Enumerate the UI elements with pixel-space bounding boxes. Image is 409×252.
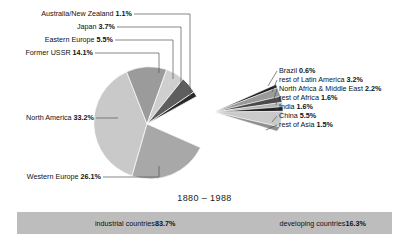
summary-developing-countries: developing countries 16.3% (253, 212, 392, 234)
summary-bar: industrial countries 83.7% developing co… (17, 212, 392, 234)
pie-chart-figure: Australia/New Zealand 1.1% Japan 3.7% Ea… (0, 0, 409, 252)
label-eastern-europe: Eastern Europe 5.5% (0, 36, 113, 43)
label-australia-new-zealand: Australia/New Zealand 1.1% (0, 10, 132, 17)
main-pie-slices (94, 67, 201, 179)
exploded-wedge-developing (214, 85, 283, 132)
label-india: India 1.6% (279, 103, 313, 110)
exploded-slice-china (214, 111, 283, 127)
label-rest-of-asia: rest of Asia 1.5% (279, 121, 333, 128)
label-former-ussr: Former USSR 14.1% (0, 49, 93, 56)
label-western-europe: Western Europe 26.1% (0, 173, 101, 180)
label-rest-latin-america: rest of Latin America 3.2% (279, 76, 363, 83)
label-rest-of-africa: rest of Africa 1.6% (279, 94, 337, 101)
label-china: China 5.5% (279, 112, 316, 119)
label-brazil: Brazil 0.6% (279, 67, 315, 74)
label-north-africa-middle-east: North Africa & Middle East 2.2% (279, 85, 381, 92)
period-label: 1880 – 1988 (0, 193, 409, 203)
label-japan: Japan 3.7% (0, 23, 115, 30)
label-north-america: North America 33.2% (0, 114, 94, 121)
summary-industrial-countries: industrial countries 83.7% (17, 212, 253, 234)
